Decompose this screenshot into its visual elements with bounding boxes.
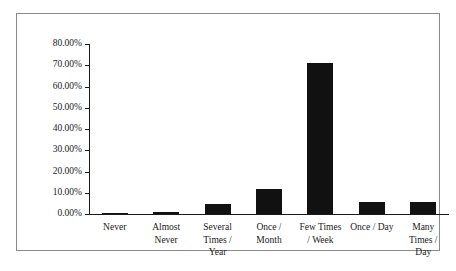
y-axis-tick xyxy=(85,193,90,194)
x-axis-category-label-line: Almost xyxy=(140,221,191,234)
x-axis-category-label-line: Times / xyxy=(398,234,449,247)
x-axis-category-label-line: Day xyxy=(398,246,449,259)
x-axis-category-label: AlmostNever xyxy=(140,221,191,246)
bar xyxy=(410,202,436,214)
bar-chart-figure: 0.00%10.00%20.00%30.00%40.00%50.00%60.00… xyxy=(0,0,456,271)
y-axis-tick xyxy=(85,108,90,109)
x-axis-category-label-line: Year xyxy=(192,246,243,259)
x-axis-category-label-line: Once / xyxy=(243,221,294,234)
y-axis-tick-label: 50.00% xyxy=(53,103,82,113)
y-axis-tick-label: 0.00% xyxy=(57,209,82,219)
x-axis-category-label: Once /Month xyxy=(243,221,294,246)
y-axis-tick-label: 10.00% xyxy=(53,188,82,198)
bar xyxy=(102,213,128,215)
x-axis-category-label-line: / Week xyxy=(295,234,346,247)
x-axis-category-label: Never xyxy=(89,221,140,234)
x-axis-line xyxy=(89,214,449,215)
y-axis-tick xyxy=(85,65,90,66)
x-axis-category-label-line: Several xyxy=(192,221,243,234)
y-axis-tick xyxy=(85,44,90,45)
bar xyxy=(256,189,282,215)
y-axis-tick-label: 40.00% xyxy=(53,124,82,134)
x-axis-category-label: Once / Day xyxy=(346,221,397,234)
x-axis-category-label-line: Never xyxy=(89,221,140,234)
x-axis-category-label-line: Many xyxy=(398,221,449,234)
bar xyxy=(359,202,385,214)
y-axis-tick-label: 60.00% xyxy=(53,82,82,92)
y-axis-tick xyxy=(85,129,90,130)
bar xyxy=(205,204,231,214)
y-axis-tick-label: 70.00% xyxy=(53,61,82,71)
x-axis-category-label-line: Month xyxy=(243,234,294,247)
y-axis-tick xyxy=(85,214,90,215)
x-axis-category-label-line: Times / xyxy=(192,234,243,247)
x-axis-category-label: Few Times/ Week xyxy=(295,221,346,246)
plot-area: 0.00%10.00%20.00%30.00%40.00%50.00%60.00… xyxy=(89,44,449,214)
x-axis-category-label: SeveralTimes /Year xyxy=(192,221,243,259)
x-axis-category-label-line: Few Times xyxy=(295,221,346,234)
bar xyxy=(307,63,333,214)
chart-frame: 0.00%10.00%20.00%30.00%40.00%50.00%60.00… xyxy=(16,13,440,251)
y-axis-tick xyxy=(85,87,90,88)
x-axis-category-label-line: Never xyxy=(140,234,191,247)
y-axis-tick xyxy=(85,150,90,151)
bar xyxy=(153,212,179,214)
x-axis-category-label: ManyTimes /Day xyxy=(398,221,449,259)
y-axis-tick-label: 20.00% xyxy=(53,167,82,177)
x-axis-category-label-line: Once / Day xyxy=(346,221,397,234)
y-axis-tick xyxy=(85,172,90,173)
y-axis-tick-label: 80.00% xyxy=(53,39,82,49)
y-axis-tick-label: 30.00% xyxy=(53,146,82,156)
